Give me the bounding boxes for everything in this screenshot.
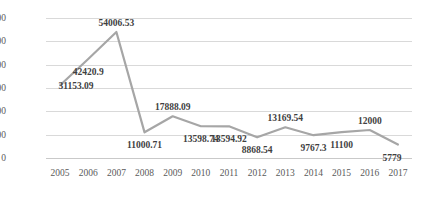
data-point-label: 11000.71 [127, 140, 162, 150]
y-axis-tick-label: 30000 [0, 83, 6, 93]
x-axis-tick-label: 2008 [135, 168, 154, 179]
series-polyline [60, 32, 398, 145]
x-axis-tick-label: 2007 [107, 168, 126, 179]
x-axis-tick-label: 2013 [276, 168, 295, 179]
data-point-label: 12000 [358, 116, 382, 126]
line-chart: 0100002000030000400005000060000 20052006… [0, 0, 423, 198]
data-point-label: 42420.9 [73, 67, 104, 77]
y-axis-tick-label: 50000 [0, 36, 6, 46]
x-axis-tick-labels: 2005200620072008200920102011201220132014… [46, 168, 412, 184]
x-axis-tick-label: 2014 [304, 168, 323, 179]
x-axis-tick-label: 2005 [51, 168, 70, 179]
y-axis-tick-label: 60000 [0, 13, 6, 23]
x-axis-tick-label: 2009 [163, 168, 182, 179]
y-axis-tick-label: 0 [0, 153, 6, 163]
data-point-label: 11100 [330, 140, 353, 150]
data-point-label: 13169.54 [267, 113, 303, 123]
data-point-label: 17888.09 [155, 102, 191, 112]
x-axis-tick-label: 2006 [79, 168, 98, 179]
data-point-label: 5779 [382, 153, 401, 163]
data-point-label: 9767.3 [300, 143, 326, 153]
y-axis-tick-label: 20000 [0, 106, 6, 116]
x-axis-tick-label: 2012 [248, 168, 267, 179]
x-axis-tick-label: 2017 [388, 168, 407, 179]
y-axis-tick-label: 40000 [0, 60, 6, 70]
data-point-label: 8868.54 [242, 145, 273, 155]
gridline [46, 158, 412, 159]
x-axis-tick-label: 2010 [191, 168, 210, 179]
data-point-label: 31153.09 [59, 81, 94, 91]
x-axis-tick-label: 2016 [360, 168, 379, 179]
data-point-label: 13594.92 [211, 134, 247, 144]
x-axis-tick-label: 2015 [332, 168, 351, 179]
y-axis-tick-label: 10000 [0, 130, 6, 140]
x-axis-tick-label: 2011 [220, 168, 239, 179]
data-point-label: 54006.53 [99, 18, 135, 28]
